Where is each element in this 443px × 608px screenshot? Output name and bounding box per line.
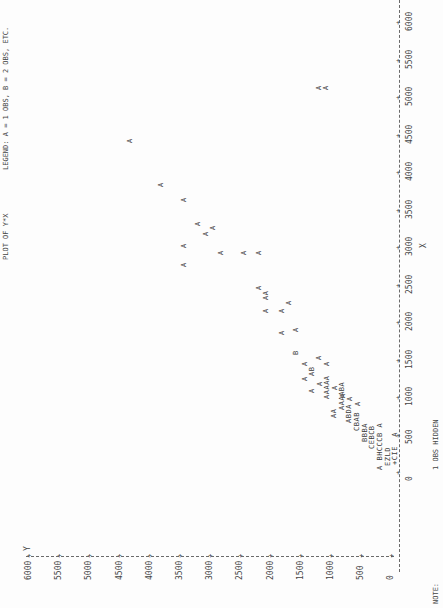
- plot-point: A: [256, 250, 263, 255]
- plot-point: A: [293, 327, 300, 332]
- y-tick-mark: +: [238, 553, 242, 560]
- plot-point: AA: [263, 291, 270, 300]
- plot-point: A: [324, 361, 331, 366]
- plot-point: CBAB: [354, 412, 361, 431]
- plot-point: B: [293, 350, 300, 355]
- x-tick-mark: +: [396, 208, 400, 215]
- x-tick-label: 1500: [406, 349, 414, 368]
- y-tick-label: 0: [387, 575, 395, 580]
- x-tick-mark: +: [396, 470, 400, 477]
- plot-point: A: [347, 396, 354, 401]
- x-tick-label: 6000: [406, 12, 414, 31]
- x-tick-mark: +: [396, 58, 400, 65]
- y-tick-label: 3000: [206, 561, 214, 580]
- plot-point: A: [263, 308, 270, 313]
- plot-point: A: [127, 138, 134, 143]
- x-tick-mark: +: [396, 283, 400, 290]
- plot-legend: LEGEND: A = 1 OBS, B = 2 OBS, ETC.: [2, 27, 10, 170]
- x-tick-label: 1000: [406, 387, 414, 406]
- plot-point: A: [241, 250, 248, 255]
- plot-point: A: [195, 221, 202, 226]
- y-tick-label: 2000: [267, 561, 275, 580]
- x-tick-mark: +: [396, 358, 400, 365]
- y-tick-mark: +: [269, 553, 273, 560]
- y-tick-mark: +: [329, 553, 333, 560]
- x-tick-mark: +: [396, 20, 400, 27]
- x-tick-mark: +: [396, 320, 400, 327]
- y-tick-label: 2500: [236, 561, 244, 580]
- y-tick-mark: +: [208, 553, 212, 560]
- y-tick-mark: +: [118, 553, 122, 560]
- plot-point: A: [286, 300, 293, 305]
- plot-point: AAAAA: [324, 375, 331, 399]
- y-tick-mark: +: [389, 553, 393, 560]
- x-tick-label: 3000: [406, 237, 414, 256]
- y-tick-label: 1500: [297, 561, 305, 580]
- plot-page: PLOT OF Y*X LEGEND: A = 1 OBS, B = 2 OBS…: [0, 0, 443, 608]
- note-text: 1 OBS HIDDEN: [432, 419, 440, 470]
- y-axis-label: Y: [24, 546, 32, 551]
- y-tick-mark: +: [299, 553, 303, 560]
- plot-point: A: [279, 330, 286, 335]
- x-tick-label: 3500: [406, 199, 414, 218]
- y-tick-label: 3500: [176, 561, 184, 580]
- plot-point: A: [309, 388, 316, 393]
- x-tick-label: 2500: [406, 274, 414, 293]
- x-tick-label: 4500: [406, 124, 414, 143]
- plot-point: AB: [309, 367, 316, 376]
- plot-point: A: [256, 285, 263, 290]
- y-tick-label: 500: [357, 566, 365, 580]
- plot-point: A: [181, 243, 188, 248]
- y-tick-mark: +: [178, 553, 182, 560]
- x-tick-mark: +: [396, 395, 400, 402]
- x-tick-label: 500: [406, 429, 414, 443]
- x-tick-label: 2000: [406, 312, 414, 331]
- x-tick-mark: +: [396, 245, 400, 252]
- plot-point: A: [323, 85, 330, 90]
- y-tick-label: 6000: [25, 561, 33, 580]
- plot-point: A: [302, 376, 309, 381]
- plot-point: ABDA: [346, 404, 353, 423]
- plot-point: A: [218, 250, 225, 255]
- plot-point: A: [181, 197, 188, 202]
- plot-point: A: [355, 401, 362, 406]
- plot-point: A BHCCCB A: [377, 423, 384, 470]
- y-tick-mark: +: [87, 553, 91, 560]
- plot-point: A: [316, 85, 323, 90]
- y-tick-mark: +: [27, 553, 31, 560]
- plot-point: CEBCB: [369, 425, 376, 449]
- x-tick-mark: +: [396, 133, 400, 140]
- y-tick-mark: +: [148, 553, 152, 560]
- y-tick-label: 1000: [327, 561, 335, 580]
- x-tick-label: 5500: [406, 49, 414, 68]
- y-tick-mark: +: [359, 553, 363, 560]
- plot-point: A: [302, 361, 309, 366]
- x-tick-label: 4000: [406, 162, 414, 181]
- plot-point: A: [181, 262, 188, 267]
- y-tick-label: 5000: [85, 561, 93, 580]
- x-tick-mark: +: [396, 95, 400, 102]
- plot-point: A: [158, 182, 165, 187]
- plot-point: A: [316, 355, 323, 360]
- plot-point: A: [279, 308, 286, 313]
- y-tick-label: 4500: [116, 561, 124, 580]
- plot-point: A: [203, 231, 210, 236]
- plot-point: AA: [331, 409, 338, 418]
- y-tick-label: 4000: [146, 561, 154, 580]
- x-tick-mark: +: [396, 170, 400, 177]
- y-tick-label: 5500: [55, 561, 63, 580]
- plot-title: PLOT OF Y*X: [2, 214, 10, 260]
- plot-point: A: [210, 225, 217, 230]
- x-tick-label: 0: [406, 476, 414, 481]
- x-tick-label: 5000: [406, 87, 414, 106]
- x-axis-label: X: [420, 243, 428, 248]
- plot-point: +CIE A: [392, 432, 399, 465]
- y-tick-mark: +: [57, 553, 61, 560]
- note-label: NOTE:: [432, 583, 440, 604]
